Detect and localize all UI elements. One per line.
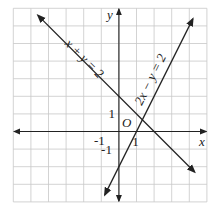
series-line-1 [105, 19, 193, 195]
y-axis-label: y [105, 7, 113, 22]
equation-label-x-plus-y: x + y = 2 [62, 35, 108, 81]
y-tick-label: -1 [101, 142, 112, 157]
equation-lines [38, 15, 195, 195]
origin-label: O [122, 115, 132, 130]
x-axis-label: x [198, 134, 205, 149]
labels: x y O -1 1 1 -1 x + y = 2 2x − y = 2 [62, 7, 205, 157]
series-line-0 [38, 15, 195, 172]
chart: x y O -1 1 1 -1 x + y = 2 2x − y = 2 [0, 0, 212, 210]
y-tick-label: 1 [108, 106, 115, 121]
x-tick-label: 1 [132, 134, 139, 149]
